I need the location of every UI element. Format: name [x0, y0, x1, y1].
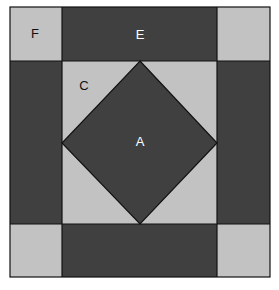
corner-square-bottom-left — [10, 224, 62, 277]
label-f: F — [31, 26, 39, 41]
label-e: E — [136, 27, 145, 42]
corner-square-bottom-right — [217, 224, 270, 277]
corner-square-top-right — [217, 7, 270, 61]
quilt-diagram: F E C A — [0, 0, 279, 290]
edge-rect-right — [217, 61, 270, 224]
edge-rect-left — [10, 61, 62, 224]
label-c: C — [79, 78, 88, 93]
label-a: A — [136, 134, 145, 149]
edge-rect-bottom — [62, 224, 217, 277]
